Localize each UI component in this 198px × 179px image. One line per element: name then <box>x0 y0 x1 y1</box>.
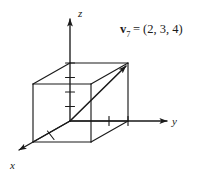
z-axis-label: z <box>77 7 83 19</box>
vector-label: v7=(2, 3, 4) <box>120 22 183 39</box>
cube-edge-depth-top-right <box>91 63 128 84</box>
vector-label-components: (2, 3, 4) <box>143 22 183 36</box>
bounding-cube-wireframe <box>33 63 128 142</box>
vector-arrow-v7 <box>70 66 126 121</box>
cube-edge-depth-top-left <box>33 63 70 84</box>
vector-label-subscript: 7 <box>126 29 130 39</box>
vector-label-equals: = <box>133 22 140 36</box>
vector-figure: z y x v7=(2, 3, 4) <box>0 0 198 179</box>
x-axis-label: x <box>9 159 15 171</box>
vector-diagram-canvas: z y x v7=(2, 3, 4) <box>0 0 198 179</box>
y-axis-label: y <box>171 115 177 127</box>
x-axis-line <box>19 121 70 150</box>
